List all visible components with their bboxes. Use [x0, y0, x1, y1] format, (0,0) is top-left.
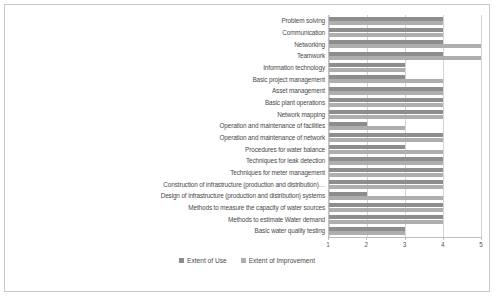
bar-extent-of-improvement	[329, 79, 443, 83]
bar-extent-of-use	[329, 87, 443, 91]
legend-swatch-icon	[179, 258, 184, 263]
bar-extent-of-improvement	[329, 68, 405, 72]
bar-extent-of-use	[329, 192, 367, 196]
category-label: Construction of infrastructure (producti…	[11, 181, 328, 188]
category-label: Asset management	[11, 87, 328, 94]
bar-group	[329, 144, 481, 154]
category-label: Methods to measure the capacity of water…	[11, 204, 328, 211]
bar-extent-of-improvement	[329, 173, 443, 177]
bar-extent-of-use	[329, 52, 443, 56]
x-axis-tick	[328, 237, 329, 240]
bar-group	[329, 16, 481, 26]
bar-extent-of-use	[329, 215, 443, 219]
legend-item-use[interactable]: Extent of Use	[179, 257, 227, 264]
bar-extent-of-improvement	[329, 150, 443, 154]
category-label: Communication	[11, 29, 328, 36]
bar-group	[329, 156, 481, 166]
plot-area	[328, 15, 481, 237]
bar-extent-of-use	[329, 122, 367, 126]
bar-group	[329, 74, 481, 84]
category-label: Problem solving	[11, 17, 328, 24]
bar-extent-of-improvement	[329, 196, 443, 200]
legend-item-improve[interactable]: Extent of Improvement	[241, 257, 315, 264]
chart-legend: Extent of UseExtent of Improvement	[5, 257, 489, 264]
category-label: Networking	[11, 41, 328, 48]
bar-rows	[329, 15, 481, 237]
category-label: Information technology	[11, 64, 328, 71]
bar-extent-of-use	[329, 227, 405, 231]
bar-group	[329, 121, 481, 131]
x-axis-tick-label: 3	[403, 241, 407, 248]
bar-extent-of-improvement	[329, 56, 481, 60]
bar-extent-of-improvement	[329, 161, 443, 165]
bar-extent-of-improvement	[329, 208, 443, 212]
bar-extent-of-improvement	[329, 185, 443, 189]
bar-group	[329, 63, 481, 73]
category-label: Teamwork	[11, 52, 328, 59]
bar-extent-of-improvement	[329, 220, 443, 224]
bar-extent-of-use	[329, 168, 443, 172]
bar-group	[329, 109, 481, 119]
bar-extent-of-improvement	[329, 103, 443, 107]
x-axis-tick	[405, 237, 406, 240]
bar-extent-of-use	[329, 75, 405, 79]
bar-extent-of-use	[329, 40, 443, 44]
bar-group	[329, 214, 481, 224]
legend-swatch-icon	[241, 258, 246, 263]
bar-extent-of-use	[329, 63, 405, 67]
chart-plot-wrapper: Problem solvingCommunicationNetworkingTe…	[5, 5, 489, 291]
bar-group	[329, 179, 481, 189]
bar-extent-of-use	[329, 98, 443, 102]
x-axis-tick-label: 2	[364, 241, 368, 248]
category-label: Basic water quality testing	[11, 227, 328, 234]
bar-group	[329, 86, 481, 96]
legend-label: Extent of Improvement	[249, 257, 315, 264]
category-label: Network mapping	[11, 111, 328, 118]
category-label: Design of infrastructure (production and…	[11, 192, 328, 199]
category-label: Techniques for meter management	[11, 169, 328, 176]
bar-group	[329, 203, 481, 213]
bar-extent-of-use	[329, 17, 443, 21]
bar-extent-of-use	[329, 157, 443, 161]
category-label: Procedures for water balance	[11, 146, 328, 153]
bar-group	[329, 51, 481, 61]
bar-group	[329, 39, 481, 49]
bar-extent-of-use	[329, 203, 443, 207]
x-axis-tick-label: 4	[441, 241, 445, 248]
x-axis-tick	[481, 237, 482, 240]
bar-extent-of-improvement	[329, 91, 443, 95]
bar-group	[329, 133, 481, 143]
bar-group	[329, 191, 481, 201]
x-axis-tick-label: 1	[326, 241, 330, 248]
category-label: Operation and maintenance of facilities	[11, 122, 328, 129]
category-axis-labels: Problem solvingCommunicationNetworkingTe…	[11, 15, 328, 237]
category-label: Operation and maintenance of network	[11, 134, 328, 141]
x-axis-tick-label: 5	[479, 241, 483, 248]
bar-extent-of-use	[329, 180, 443, 184]
bar-extent-of-improvement	[329, 126, 405, 130]
category-label: Techniques for leak detection	[11, 157, 328, 164]
x-axis-tick-labels: 12345	[328, 241, 481, 251]
bar-extent-of-improvement	[329, 115, 443, 119]
bar-group	[329, 226, 481, 236]
bar-group	[329, 28, 481, 38]
category-label: Basic project management	[11, 76, 328, 83]
bar-extent-of-use	[329, 145, 405, 149]
bar-group	[329, 98, 481, 108]
bar-extent-of-use	[329, 28, 443, 32]
x-axis-tick	[366, 237, 367, 240]
bar-group	[329, 168, 481, 178]
bar-extent-of-improvement	[329, 44, 481, 48]
category-label: Basic plant operations	[11, 99, 328, 106]
category-label: Methods to estimate Water demand	[11, 216, 328, 223]
x-axis-tick	[443, 237, 444, 240]
bar-extent-of-use	[329, 133, 443, 137]
chart-frame: Problem solvingCommunicationNetworkingTe…	[4, 4, 490, 292]
bar-extent-of-improvement	[329, 33, 443, 37]
x-axis-line	[328, 237, 481, 238]
bar-extent-of-improvement	[329, 138, 443, 142]
gridline	[481, 15, 482, 237]
legend-label: Extent of Use	[187, 257, 227, 264]
bar-extent-of-use	[329, 110, 443, 114]
bar-extent-of-improvement	[329, 21, 443, 25]
